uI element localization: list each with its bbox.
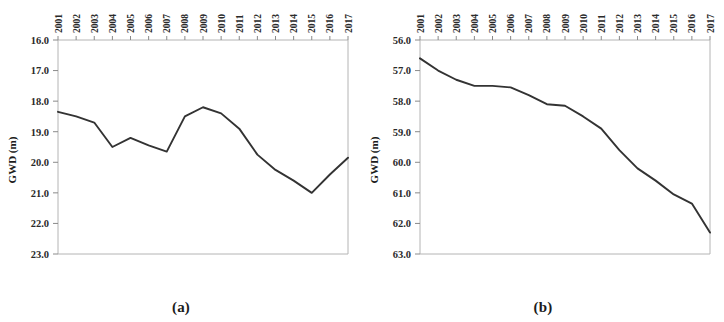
chart-b-x-ticklabel: 2013 [633,14,643,33]
chart-b-x-ticklabel: 2007 [524,14,534,33]
chart-b-x-ticklabel: 2012 [615,14,625,33]
chart-a-y-ticklabel: 23.0 [31,249,49,260]
chart-a-x-ticklabel: 2005 [126,14,136,33]
chart-a-x-ticklabel: 2014 [289,14,299,33]
chart-a-x-ticklabel: 2009 [199,14,209,33]
chart-b-y-ticklabel: 62.0 [393,218,411,229]
chart-b-x-ticklabel: 2006 [506,14,516,33]
chart-a-y-ticklabel: 17.0 [31,65,49,76]
chart-b-x-ticklabel: 2010 [579,14,589,33]
chart-a-x-ticklabel: 2012 [253,14,263,33]
chart-a-x-ticklabel: 2001 [54,14,64,33]
chart-a-svg: 16.017.018.019.020.021.022.023.0 2001200… [0,0,362,322]
chart-a-y-ticklabel: 22.0 [31,218,49,229]
chart-a-y-ticks [53,40,58,254]
chart-b-series [420,58,710,232]
chart-a-caption: (a) [0,299,362,316]
chart-a-x-ticklabel: 2008 [180,14,190,33]
chart-b-x-ticklabel: 2015 [669,14,679,33]
chart-a-y-ticklabels: 16.017.018.019.020.021.022.023.0 [31,35,49,260]
chart-b-caption: (b) [362,299,724,316]
chart-a-y-ticklabel: 19.0 [31,127,49,138]
chart-a-x-ticklabel: 2002 [72,14,82,33]
chart-a-y-ticklabel: 18.0 [31,96,49,107]
chart-a-x-ticklabel: 2016 [325,14,335,33]
chart-a-plot-area [58,40,348,254]
chart-b-x-ticklabel: 2009 [561,14,571,33]
chart-a-x-ticklabels: 2001200220032004200520062007200820092010… [54,14,354,33]
chart-b-y-axis-title: GWD (m) [368,136,381,183]
chart-b-y-ticklabel: 56.0 [393,35,411,46]
chart-b-x-ticklabel: 2001 [416,14,426,33]
chart-b-x-ticklabels: 2001200220032004200520062007200820092010… [416,14,716,33]
chart-b-x-ticklabel: 2008 [542,14,552,33]
chart-b-y-ticklabel: 58.0 [393,96,411,107]
chart-b-y-ticklabel: 57.0 [393,65,411,76]
chart-b-y-ticklabel: 61.0 [393,188,411,199]
chart-b-x-ticklabel: 2014 [651,14,661,33]
chart-a-x-ticks [58,36,348,40]
chart-b-x-ticklabel: 2003 [452,14,462,33]
chart-b-x-ticklabel: 2016 [687,14,697,33]
chart-b-x-ticklabel: 2011 [597,14,607,33]
chart-a-x-ticklabel: 2003 [90,14,100,33]
chart-a-x-ticklabel: 2006 [144,14,154,33]
chart-a-x-ticklabel: 2015 [307,14,317,33]
chart-b-x-ticklabel: 2002 [434,14,444,33]
chart-a-y-ticklabel: 16.0 [31,35,49,46]
chart-b-y-ticklabel: 63.0 [393,249,411,260]
chart-a-y-ticklabel: 20.0 [31,157,49,168]
chart-a-x-ticklabel: 2007 [162,14,172,33]
chart-b-y-ticklabel: 60.0 [393,157,411,168]
figure-root: 16.017.018.019.020.021.022.023.0 2001200… [0,0,724,322]
chart-b-x-ticklabel: 2017 [706,14,716,33]
chart-b-x-ticklabel: 2004 [470,14,480,33]
chart-b-svg: 56.057.058.059.060.061.062.063.0 2001200… [362,0,724,322]
chart-a-x-ticklabel: 2017 [344,14,354,33]
chart-a-x-ticklabel: 2013 [271,14,281,33]
chart-b-plot-area [420,40,710,254]
chart-b-y-ticks [415,40,420,254]
chart-a-y-axis-title: GWD (m) [6,136,19,183]
chart-b-y-ticklabels: 56.057.058.059.060.061.062.063.0 [393,35,411,260]
chart-a-x-ticklabel: 2011 [235,14,245,33]
chart-b-y-ticklabel: 59.0 [393,127,411,138]
chart-a-x-ticklabel: 2010 [217,14,227,33]
chart-a-x-ticklabel: 2004 [108,14,118,33]
chart-panel-b: 56.057.058.059.060.061.062.063.0 2001200… [362,0,724,322]
chart-b-x-ticklabel: 2005 [488,14,498,33]
chart-b-x-ticks [420,36,710,40]
chart-a-series [58,107,348,193]
chart-panel-a: 16.017.018.019.020.021.022.023.0 2001200… [0,0,362,322]
chart-b-line-gwd [420,58,710,232]
chart-a-line-gwd [58,107,348,193]
chart-a-y-ticklabel: 21.0 [31,188,49,199]
